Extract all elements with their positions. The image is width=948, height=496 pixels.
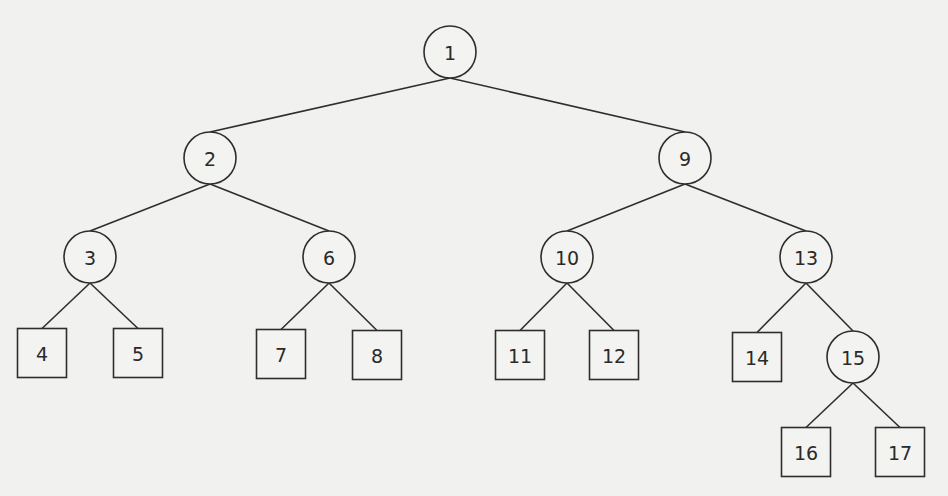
node-label: 12	[602, 345, 626, 367]
edge-9-10	[567, 184, 685, 231]
edge-1-2	[210, 78, 450, 132]
node-label: 7	[275, 344, 287, 366]
edge-15-16	[806, 383, 853, 428]
node-label: 2	[204, 148, 216, 170]
internal-node-2: 2	[184, 132, 236, 184]
node-label: 4	[36, 343, 48, 365]
branch-and-bound-tree: 1293610134578111214151617	[0, 0, 948, 496]
node-label: 5	[132, 343, 144, 365]
leaf-node-14: 14	[733, 333, 782, 382]
edge-15-17	[853, 383, 900, 428]
edge-1-9	[450, 78, 685, 132]
edge-10-11	[520, 283, 567, 331]
node-label: 10	[555, 247, 579, 269]
node-label: 17	[888, 442, 912, 464]
node-label: 15	[841, 347, 865, 369]
node-label: 13	[794, 247, 818, 269]
edge-3-5	[90, 283, 138, 329]
edge-2-3	[90, 184, 210, 231]
edge-6-8	[329, 283, 377, 331]
edge-3-4	[42, 283, 90, 329]
node-label: 14	[745, 347, 769, 369]
leaf-node-11: 11	[496, 331, 545, 380]
edge-2-6	[210, 184, 329, 231]
leaf-node-17: 17	[876, 428, 925, 477]
internal-node-9: 9	[659, 132, 711, 184]
leaf-node-4: 4	[18, 329, 67, 378]
node-label: 11	[508, 345, 532, 367]
leaf-node-16: 16	[782, 428, 831, 477]
node-label: 9	[679, 148, 691, 170]
internal-node-13: 13	[780, 231, 832, 283]
internal-node-1: 1	[424, 26, 476, 78]
node-label: 16	[794, 442, 818, 464]
node-label: 1	[444, 42, 456, 64]
internal-node-6: 6	[303, 231, 355, 283]
edge-6-7	[281, 283, 329, 330]
edge-13-15	[806, 283, 853, 331]
leaf-node-7: 7	[257, 330, 306, 379]
internal-node-10: 10	[541, 231, 593, 283]
leaf-node-12: 12	[590, 331, 639, 380]
node-label: 6	[323, 247, 335, 269]
internal-node-15: 15	[827, 331, 879, 383]
edge-10-12	[567, 283, 614, 331]
edge-13-14	[757, 283, 806, 333]
tree-nodes: 1293610134578111214151617	[18, 26, 925, 477]
leaf-node-5: 5	[114, 329, 163, 378]
edge-9-13	[685, 184, 806, 231]
internal-node-3: 3	[64, 231, 116, 283]
leaf-node-8: 8	[353, 331, 402, 380]
node-label: 3	[84, 247, 96, 269]
node-label: 8	[371, 345, 383, 367]
